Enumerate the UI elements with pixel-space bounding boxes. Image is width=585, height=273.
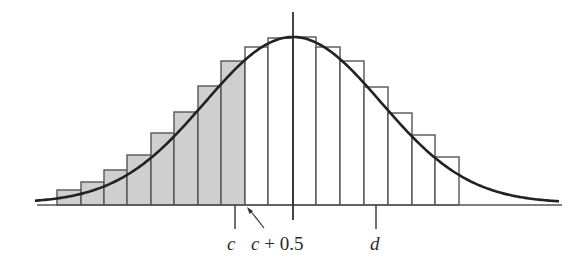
unshaded-bar (435, 157, 459, 205)
unshaded-bar (245, 47, 268, 205)
shaded-bar (127, 155, 151, 205)
unshaded-bar (316, 47, 340, 205)
unshaded-bar (388, 113, 412, 205)
normal-approximation-diagram: c c + 0.5 d (0, 0, 585, 273)
unshaded-bar (340, 61, 364, 205)
unshaded-bar (268, 38, 293, 205)
unshaded-bar (293, 37, 316, 205)
shaded-bar (104, 170, 127, 205)
label-c-plus-half: c + 0.5 (251, 233, 303, 254)
shaded-bar (174, 112, 198, 205)
label-c-plus-half-rest: + 0.5 (259, 233, 303, 254)
unshaded-bar (412, 135, 435, 205)
shaded-bar (198, 86, 221, 205)
label-d: d (370, 233, 380, 254)
label-c: c (227, 233, 236, 254)
shaded-bar (221, 61, 245, 205)
shaded-bar (151, 133, 174, 205)
